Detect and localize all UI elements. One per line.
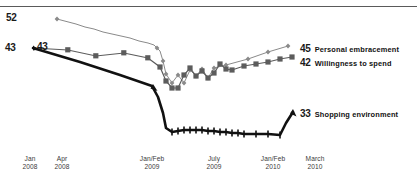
x-tick-year-4: 2010 [250, 163, 296, 171]
legend-item-shopping-environment: 33 Shopping environment [300, 108, 398, 119]
x-tick-month-5: March [306, 155, 325, 162]
x-tick-year-1: 2008 [42, 163, 82, 171]
x-tick-month-2: Jan/Feb [140, 155, 165, 162]
legend-value-shopping-environment: 33 [300, 108, 311, 119]
series-line-personal-embracement [57, 19, 288, 83]
x-tick-year-5: 2010 [294, 163, 336, 171]
legend-item-willingness-to-spend: 42 Willingness to spend [300, 57, 392, 68]
legend-item-personal-embracement: 45 Personal embracement [300, 43, 399, 54]
start-label-willingness-to-spend: 43 [37, 41, 48, 52]
legend-value-personal-embracement: 45 [300, 43, 311, 54]
x-tick-janfeb-2009: Jan/Feb 2009 [128, 155, 176, 170]
legend-value-willingness-to-spend: 42 [300, 57, 311, 68]
x-tick-year-2: 2009 [128, 163, 176, 171]
consumer-sentiment-line-chart: 52 43 43 45 Personal embracement 42 Will… [0, 0, 417, 182]
legend-label-willingness-to-spend: Willingness to spend [315, 59, 392, 68]
series-willingness-to-spend [33, 47, 295, 90]
x-tick-month-4: Jan/Feb [261, 155, 286, 162]
start-label-shopping-environment: 43 [5, 42, 16, 53]
x-tick-march-2010: March 2010 [294, 155, 336, 170]
x-tick-year-3: 2009 [194, 163, 234, 171]
x-tick-month-0: Jan [25, 155, 36, 162]
legend-label-personal-embracement: Personal embracement [315, 45, 399, 54]
legend-label-shopping-environment: Shopping environment [315, 110, 398, 119]
x-tick-july-2009: July 2009 [194, 155, 234, 170]
x-tick-month-1: Apr [57, 155, 68, 162]
series-markers-personal-embracement [55, 17, 291, 86]
series-personal-embracement [55, 17, 291, 86]
x-tick-month-3: July [208, 155, 220, 162]
series-shopping-environment [33, 45, 297, 138]
x-tick-janfeb-2010: Jan/Feb 2010 [250, 155, 296, 170]
start-label-personal-embracement: 52 [6, 12, 17, 23]
x-tick-apr-2008: Apr 2008 [42, 155, 82, 170]
series-markers-shopping-environment [172, 127, 280, 139]
